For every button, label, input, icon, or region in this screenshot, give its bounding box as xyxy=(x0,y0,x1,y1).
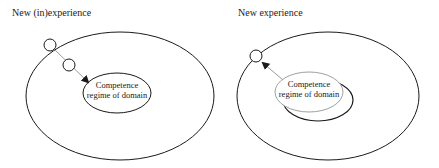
panel-right: Competence regime of domain xyxy=(237,32,419,160)
regime-label-line2: regime of domain xyxy=(279,89,340,99)
experience-circle xyxy=(250,50,262,62)
panel-left: Competence regime of domain xyxy=(26,32,214,160)
regime-label-line1: Competence xyxy=(96,80,139,90)
diagram-canvas: Competence regime of domain Competence r… xyxy=(0,0,439,168)
outward-arrow xyxy=(263,63,283,80)
regime-label-line2: regime of domain xyxy=(87,90,148,100)
regime-label-line1: Competence xyxy=(288,79,331,89)
experience-circle-inner xyxy=(63,59,75,71)
experience-circle-outer xyxy=(44,39,56,51)
